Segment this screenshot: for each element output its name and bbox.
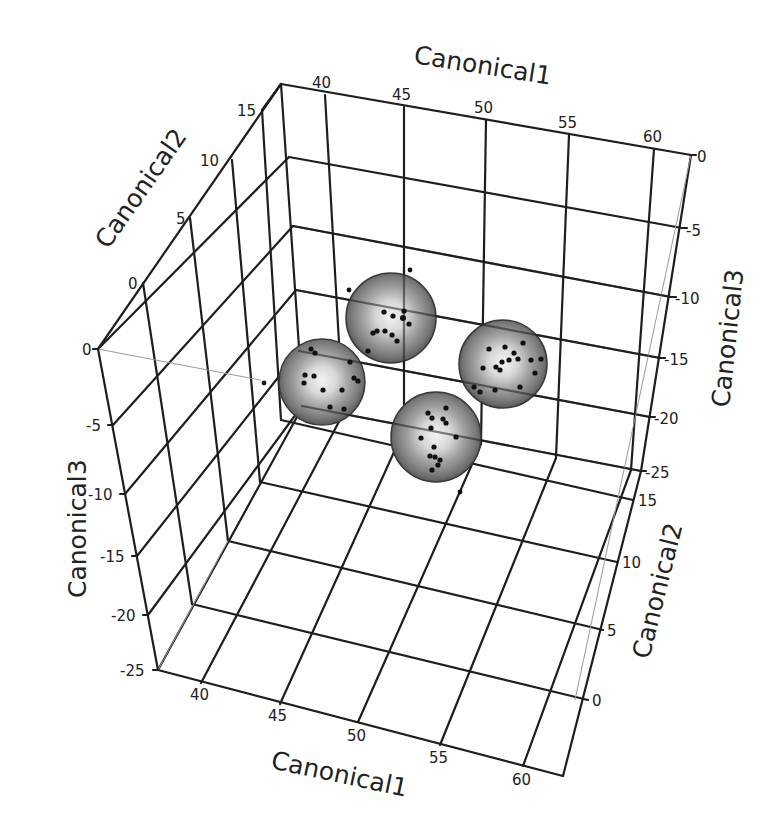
svg-text:-10: -10 — [675, 290, 700, 308]
svg-text:0: 0 — [128, 275, 138, 293]
svg-text:0: 0 — [592, 692, 602, 710]
svg-text:60: 60 — [512, 771, 531, 789]
svg-text:60: 60 — [643, 128, 662, 146]
cluster-spheres — [279, 273, 547, 482]
svg-text:0: 0 — [82, 341, 92, 359]
svg-text:0: 0 — [697, 148, 707, 166]
svg-text:10: 10 — [622, 554, 641, 572]
3d-scatter-plot: 40 45 50 55 60 0 5 10 15 0 -5 -10 -15 -2… — [0, 0, 775, 826]
axis-title-bottom-canonical1: Canonical1 — [269, 746, 411, 803]
svg-text:-5: -5 — [686, 222, 701, 240]
svg-text:-15: -15 — [664, 351, 689, 369]
svg-text:5: 5 — [176, 210, 186, 228]
axis-title-right-canonical3: Canonical3 — [706, 268, 749, 409]
svg-text:10: 10 — [200, 152, 219, 170]
svg-text:45: 45 — [392, 86, 411, 104]
sphere-cluster-top — [346, 273, 436, 363]
svg-text:55: 55 — [558, 114, 577, 132]
svg-text:40: 40 — [190, 686, 209, 704]
sphere-cluster-left — [279, 339, 365, 425]
axis-title-right-canonical2: Canonical2 — [627, 520, 689, 662]
axis-title-left-canonical3: Canonical3 — [63, 459, 92, 598]
svg-text:15: 15 — [237, 102, 256, 120]
tick-marks — [93, 155, 696, 670]
axis-title-top-canonical1: Canonical1 — [412, 40, 553, 90]
svg-text:45: 45 — [268, 707, 287, 725]
svg-text:50: 50 — [474, 99, 493, 117]
svg-text:-25: -25 — [120, 662, 145, 680]
svg-text:-5: -5 — [86, 417, 101, 435]
svg-text:-20: -20 — [111, 607, 136, 625]
svg-text:15: 15 — [638, 492, 657, 510]
svg-text:5: 5 — [607, 622, 617, 640]
svg-text:-15: -15 — [100, 548, 125, 566]
svg-text:50: 50 — [347, 727, 366, 745]
svg-text:-25: -25 — [645, 464, 670, 482]
svg-text:-20: -20 — [654, 410, 679, 428]
svg-text:55: 55 — [429, 749, 448, 767]
top-x-ticks: 40 45 50 55 60 — [312, 74, 662, 146]
right-z-ticks: 0 -5 -10 -15 -20 -25 — [645, 148, 707, 482]
svg-text:40: 40 — [312, 74, 331, 92]
